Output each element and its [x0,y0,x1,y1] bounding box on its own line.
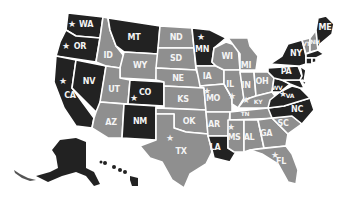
state-ms[interactable] [228,120,244,152]
state-ct[interactable] [306,58,312,64]
state-ar[interactable] [206,112,230,136]
state-ak-islands [14,170,36,181]
state-ny[interactable] [270,40,306,66]
state-wy[interactable] [120,52,158,80]
state-co[interactable] [128,80,164,106]
state-ak[interactable] [36,138,100,186]
state-nm[interactable] [122,104,156,140]
state-hi[interactable] [100,161,139,187]
state-me[interactable] [316,16,334,50]
state-ks[interactable] [164,86,206,110]
state-nd[interactable] [158,26,194,48]
us-states-map [0,0,348,203]
state-nj[interactable] [300,66,306,82]
state-sd[interactable] [156,48,196,70]
state-fl[interactable] [250,146,298,184]
state-ia[interactable] [196,66,224,86]
state-pa[interactable] [268,66,302,80]
state-ri[interactable] [312,58,316,63]
